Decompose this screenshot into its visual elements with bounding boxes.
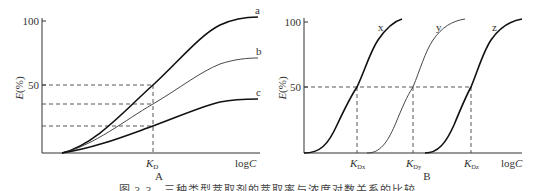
panel-a-label-c: c [256, 86, 261, 98]
panel-a-ytick-50: 50 [28, 79, 40, 91]
panel-b-xlabel: logC [501, 157, 523, 169]
panel-a-ytick-100: 100 [23, 15, 40, 27]
panel-a-ylabel: E(%) [13, 76, 26, 101]
figure-caption: 图 3-3 三种类型萃取剂的萃取率与浓度对数关系的比较 [0, 181, 535, 191]
panel-b-curve-x [304, 19, 402, 153]
panel-b-curve-z [425, 19, 522, 153]
panel-b-reference-lines [304, 87, 471, 153]
panel-b-kdy-label: KDy [405, 157, 422, 170]
panel-a-reference-lines [42, 85, 153, 153]
panel-a-kd-label: KD [145, 157, 158, 171]
panel-b: 100 50 E(%) x y z KDx KDy KDz l [276, 16, 523, 182]
panel-b-kdx-label: KDx [349, 157, 366, 170]
panel-a: 100 50 E(%) a b c KD logC A [13, 4, 262, 182]
panel-a-xlabel: logC [235, 157, 257, 169]
panel-b-label-x: x [378, 21, 384, 33]
panel-b-label-z: z [492, 21, 497, 33]
panel-a-label-b: b [256, 45, 262, 57]
panel-b-ytick-100: 100 [285, 16, 302, 28]
figure: 100 50 E(%) a b c KD logC A [0, 0, 535, 191]
panel-b-ylabel: E(%) [276, 76, 289, 101]
panel-b-kdz-label: KDz [463, 157, 479, 170]
panel-b-ytick-50: 50 [290, 81, 302, 93]
panel-a-label-a: a [255, 4, 260, 16]
panel-b-label-y: y [436, 21, 442, 33]
